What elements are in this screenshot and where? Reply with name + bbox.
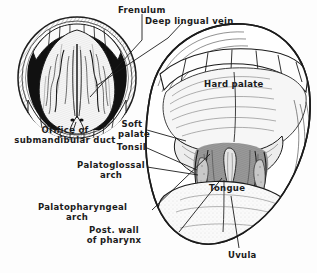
label-uvula: Uvula xyxy=(228,251,257,261)
label-deep-lingual-vein: Deep lingual vein xyxy=(145,17,234,27)
figure-canvas: Frenulum Deep lingual vein Hard palate S… xyxy=(0,0,317,273)
label-frenulum: Frenulum xyxy=(118,6,166,16)
label-tongue: Tongue xyxy=(209,184,245,194)
label-palatoglossal-arch: Palatoglossal arch xyxy=(75,161,147,180)
label-orifice-of-submandibular-duct: Orifice of submandibular duct xyxy=(10,126,120,145)
label-soft-palate: Soft palate xyxy=(118,120,146,139)
panel-oropharynx-view xyxy=(146,20,314,271)
label-hard-palate: Hard palate xyxy=(204,80,264,90)
label-post-wall-of-pharynx: Post. wall of pharynx xyxy=(83,226,145,245)
label-palatopharyngeal-arch: Palatopharyngeal arch xyxy=(38,203,116,222)
